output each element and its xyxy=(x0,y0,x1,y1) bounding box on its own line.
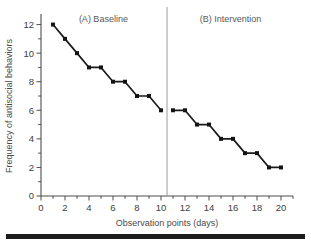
data-point-marker xyxy=(135,94,139,98)
data-point-marker xyxy=(219,137,223,141)
y-tick-label: 4 xyxy=(29,133,34,144)
data-point-marker xyxy=(123,80,127,84)
x-tick-label: 2 xyxy=(62,202,67,213)
data-point-marker xyxy=(99,65,103,69)
single-case-design-chart: 024681012 02468101214161820 Frequency of… xyxy=(0,0,311,242)
phase-a-label: (A) Baseline xyxy=(79,14,128,24)
data-point-marker xyxy=(51,23,55,27)
bottom-rule-divider xyxy=(6,234,305,239)
y-tick-label: 2 xyxy=(29,162,34,173)
x-tick-label: 20 xyxy=(276,202,287,213)
y-axis-title: Frequency of antisocial behaviors xyxy=(4,38,14,173)
data-point-marker xyxy=(183,108,187,112)
x-tick-label: 16 xyxy=(228,202,239,213)
data-point-marker xyxy=(75,51,79,55)
data-point-marker xyxy=(255,151,259,155)
y-tick-label: 0 xyxy=(29,190,34,201)
data-point-marker xyxy=(195,123,199,127)
x-tick-label: 8 xyxy=(134,202,139,213)
x-tick-label: 12 xyxy=(180,202,191,213)
data-point-marker xyxy=(87,65,91,69)
x-tick-label: 6 xyxy=(110,202,115,213)
data-point-marker xyxy=(111,80,115,84)
data-point-marker xyxy=(159,108,163,112)
x-tick-label: 14 xyxy=(204,202,215,213)
x-tick-label: 4 xyxy=(86,202,91,213)
y-tick-label: 8 xyxy=(29,76,34,87)
data-point-marker xyxy=(267,165,271,169)
x-tick-label: 0 xyxy=(38,202,43,213)
data-point-marker xyxy=(63,37,67,41)
phase-b-label: (B) Intervention xyxy=(200,14,262,24)
y-tick-label: 10 xyxy=(23,48,34,59)
data-point-marker xyxy=(279,165,283,169)
y-tick-label: 12 xyxy=(23,19,34,30)
x-tick-label: 18 xyxy=(252,202,263,213)
data-point-marker xyxy=(207,123,211,127)
y-tick-label: 6 xyxy=(29,105,34,116)
x-axis-title: Observation points (days) xyxy=(116,218,219,228)
data-point-marker xyxy=(243,151,247,155)
data-point-marker xyxy=(147,94,151,98)
data-point-marker xyxy=(231,137,235,141)
data-point-marker xyxy=(171,108,175,112)
x-tick-label: 10 xyxy=(156,202,167,213)
